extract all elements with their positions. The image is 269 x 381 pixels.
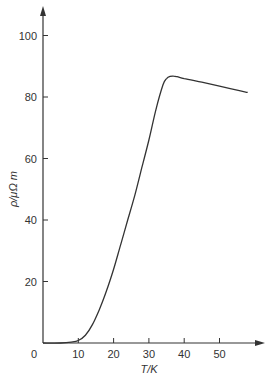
y-tick-label: 40: [25, 214, 37, 226]
y-axis-arrow-icon: [40, 6, 46, 16]
resistivity-chart: 20406080100 1020304050 0 T/K ρ/μΩ m: [0, 0, 269, 381]
y-axis-label: ρ/μΩ m: [7, 171, 19, 208]
x-tick-label: 30: [143, 348, 155, 360]
origin-label: 0: [31, 348, 37, 360]
y-tick-label: 20: [25, 276, 37, 288]
x-tick-label: 10: [72, 348, 84, 360]
y-tick-label: 60: [25, 153, 37, 165]
resistivity-curve: [43, 76, 248, 343]
y-tick-label: 80: [25, 91, 37, 103]
x-tick-label: 50: [213, 348, 225, 360]
x-tick-label: 40: [178, 348, 190, 360]
x-axis-label: T/K: [140, 363, 158, 375]
y-tick-label: 100: [19, 30, 37, 42]
x-tick-label: 20: [107, 348, 119, 360]
x-axis-arrow-icon: [255, 340, 265, 346]
x-ticks: 1020304050: [72, 338, 225, 360]
